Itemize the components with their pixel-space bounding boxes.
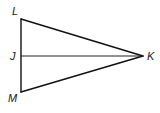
vertex-label-J: J bbox=[9, 50, 16, 62]
triangle-diagram: L J M K bbox=[0, 0, 160, 113]
vertex-label-L: L bbox=[12, 5, 18, 17]
segment-LK bbox=[21, 19, 143, 56]
segment-KM bbox=[21, 56, 143, 92]
vertex-label-M: M bbox=[8, 92, 18, 104]
vertex-label-K: K bbox=[147, 50, 155, 62]
